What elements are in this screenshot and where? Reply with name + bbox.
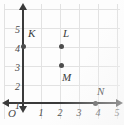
x-tick-label-5: 5 [111,108,123,118]
data-point-label-m: M [62,72,71,83]
data-point-label-n: N [97,86,104,97]
y-axis-line [22,8,24,108]
data-point-label-k: K [28,28,35,39]
y-axis-arrow-down-icon [19,106,27,113]
x-axis-arrow-right-icon [116,99,123,107]
y-tick-label-2: 2 [8,82,20,92]
y-tick-label-4: 4 [8,44,20,54]
y-tick-label-3: 3 [8,63,20,73]
data-point-k [21,44,26,49]
origin-label: O [8,108,16,119]
data-point-n [93,101,98,106]
coordinate-grid-figure: 5 4 3 2 1 1 2 3 4 5 O K L M N [0,0,124,125]
x-tick-label-3: 3 [73,108,85,118]
x-tick-label-2: 2 [54,108,66,118]
data-point-l [59,44,64,49]
y-tick-label-5: 5 [8,25,20,35]
x-tick-label-4: 4 [92,108,104,118]
x-axis-line [6,102,118,104]
x-tick-label-1: 1 [35,108,47,118]
data-point-m [59,63,64,68]
y-axis-arrow-up-icon [19,3,27,10]
data-point-label-l: L [63,28,69,39]
